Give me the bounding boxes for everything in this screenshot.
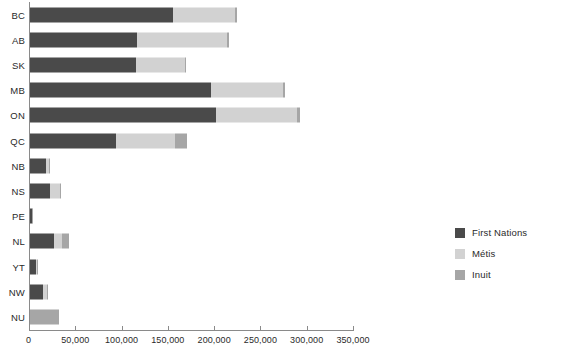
x-tick-mark (29, 326, 30, 331)
category-label: ON (0, 110, 25, 121)
bar-row: NB (0, 153, 562, 178)
bar-stack[interactable] (30, 32, 229, 47)
x-tick-label: 50,000 (61, 335, 89, 345)
bar-stack[interactable] (30, 158, 50, 173)
bar-segment-inuit[interactable] (235, 7, 238, 22)
chart-legend: First NationsMétisInuit (455, 222, 560, 285)
category-label: MB (0, 85, 25, 96)
bar-row: BC (0, 2, 562, 27)
bar-segment-inuit[interactable] (227, 32, 229, 47)
x-tick-mark (260, 326, 261, 331)
x-tick-label: 250,000 (244, 335, 277, 345)
legend-item[interactable]: Métis (455, 243, 560, 264)
x-tick-label: 100,000 (105, 335, 138, 345)
x-tick-mark (122, 326, 123, 331)
bar-segment-first-nations[interactable] (30, 108, 216, 123)
category-label: QC (0, 135, 25, 146)
bar-segment-métis[interactable] (173, 7, 234, 22)
bar-segment-first-nations[interactable] (30, 158, 46, 173)
bar-segment-inuit[interactable] (185, 57, 186, 72)
category-label: YT (0, 261, 25, 272)
bar-segment-first-nations[interactable] (30, 284, 43, 299)
bar-segment-first-nations[interactable] (30, 133, 116, 148)
bar-stack[interactable] (30, 83, 285, 98)
bar-row: SK (0, 52, 562, 77)
category-label: NU (0, 311, 25, 322)
category-label: NS (0, 185, 25, 196)
legend-swatch-icon (455, 270, 465, 280)
bar-segment-métis[interactable] (211, 83, 283, 98)
bar-segment-métis[interactable] (54, 234, 62, 249)
bar-stack[interactable] (30, 234, 69, 249)
bar-segment-first-nations[interactable] (30, 32, 137, 47)
bar-segment-inuit[interactable] (297, 108, 300, 123)
bar-segment-métis[interactable] (137, 32, 227, 47)
legend-swatch-icon (455, 228, 465, 238)
category-label: AB (0, 34, 25, 45)
legend-label: Métis (472, 248, 495, 259)
bar-row: AB (0, 27, 562, 52)
x-tick-label: 150,000 (151, 335, 184, 345)
x-tick-label: 350,000 (336, 335, 369, 345)
x-tick-label: 200,000 (198, 335, 231, 345)
x-tick-mark (307, 326, 308, 331)
category-label: NB (0, 160, 25, 171)
bar-segment-first-nations[interactable] (30, 57, 136, 72)
bar-segment-inuit[interactable] (47, 284, 48, 299)
x-tick-mark (75, 326, 76, 331)
bar-segment-inuit[interactable] (62, 234, 68, 249)
bar-stack[interactable] (30, 57, 186, 72)
bar-row: NU (0, 304, 562, 329)
bar-segment-first-nations[interactable] (30, 183, 50, 198)
bar-segment-métis[interactable] (116, 133, 175, 148)
category-label: SK (0, 59, 25, 70)
bar-segment-métis[interactable] (216, 108, 297, 123)
category-label: NL (0, 236, 25, 247)
bar-row: QC (0, 128, 562, 153)
bar-segment-inuit[interactable] (283, 83, 286, 98)
bar-segment-inuit[interactable] (49, 158, 50, 173)
legend-item[interactable]: Inuit (455, 264, 560, 285)
bar-segment-first-nations[interactable] (30, 234, 54, 249)
category-label: BC (0, 9, 25, 20)
bar-row: NS (0, 178, 562, 203)
bar-row: ON (0, 103, 562, 128)
x-tick-mark (214, 326, 215, 331)
x-axis-ticks: 050,000100,000150,000200,000250,000300,0… (0, 330, 562, 356)
x-tick-label: 300,000 (290, 335, 323, 345)
category-label: PE (0, 211, 25, 222)
legend-swatch-icon (455, 249, 465, 259)
bar-stack[interactable] (30, 133, 187, 148)
bar-stack[interactable] (30, 259, 38, 274)
category-label: NW (0, 286, 25, 297)
legend-label: First Nations (472, 227, 527, 238)
bar-stack[interactable] (30, 284, 48, 299)
bar-segment-inuit[interactable] (60, 183, 61, 198)
x-tick-label: 0 (26, 335, 31, 345)
bar-segment-métis[interactable] (136, 57, 185, 72)
bar-stack[interactable] (30, 209, 32, 224)
legend-item[interactable]: First Nations (455, 222, 560, 243)
x-tick-mark (168, 326, 169, 331)
bar-segment-first-nations[interactable] (30, 7, 173, 22)
bar-stack[interactable] (30, 309, 59, 324)
bar-segment-métis[interactable] (50, 183, 59, 198)
x-tick-mark (353, 326, 354, 331)
bar-segment-first-nations[interactable] (30, 83, 211, 98)
bar-segment-inuit[interactable] (30, 309, 59, 324)
bar-segment-inuit[interactable] (175, 133, 187, 148)
bar-stack[interactable] (30, 183, 61, 198)
bar-stack[interactable] (30, 7, 237, 22)
bar-stack[interactable] (30, 108, 300, 123)
legend-label: Inuit (472, 269, 491, 280)
stacked-bar-chart: BCABSKMBONQCNBNSPENLYTNWNU 050,000100,00… (0, 0, 562, 358)
bar-row: MB (0, 78, 562, 103)
